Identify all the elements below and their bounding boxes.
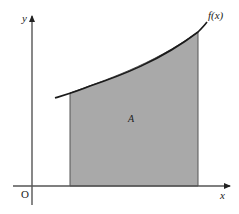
shaded-region-a (70, 32, 198, 186)
origin-label: O (21, 188, 29, 200)
y-axis-label: y (21, 12, 27, 24)
region-label: A (127, 113, 135, 124)
x-axis-label: x (219, 189, 225, 201)
curve-label: f(x) (208, 9, 224, 22)
area-under-curve-diagram: y x O f(x) A (0, 0, 239, 214)
